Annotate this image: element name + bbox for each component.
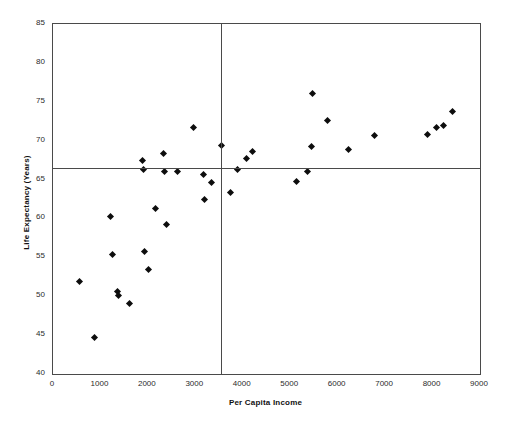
y-tick-label: 55 xyxy=(5,252,45,260)
data-point xyxy=(345,146,352,153)
x-tick-label: 7000 xyxy=(364,379,404,388)
data-point xyxy=(293,178,300,185)
data-point xyxy=(308,143,315,150)
data-point xyxy=(200,171,207,178)
x-tick-label: 4000 xyxy=(222,379,262,388)
vertical-reference-line xyxy=(221,24,222,374)
data-point xyxy=(208,179,215,186)
data-point xyxy=(227,188,234,195)
y-tick-label: 45 xyxy=(5,330,45,338)
data-point xyxy=(371,132,378,139)
y-tick-label: 70 xyxy=(5,136,45,144)
x-tick-label: 8000 xyxy=(412,379,452,388)
data-point xyxy=(76,278,83,285)
data-point xyxy=(126,300,133,307)
scatter-plot-figure: Life Expectancy (Years) 4045505560657075… xyxy=(0,0,505,423)
data-point xyxy=(151,205,158,212)
data-point xyxy=(109,251,116,258)
data-point xyxy=(448,108,455,115)
y-axis-tick-labels: 40455055606570758085 xyxy=(0,23,52,373)
data-point xyxy=(163,221,170,228)
y-tick-label: 75 xyxy=(5,97,45,105)
data-point xyxy=(309,90,316,97)
data-point xyxy=(139,157,146,164)
data-point xyxy=(141,248,148,255)
data-point xyxy=(115,292,122,299)
x-axis-tick-labels: 0100020003000400050006000700080009000 xyxy=(52,379,479,393)
data-point xyxy=(160,150,167,157)
y-tick-label: 85 xyxy=(5,19,45,27)
x-tick-label: 0 xyxy=(32,379,72,388)
x-axis-title: Per Capita Income xyxy=(52,398,479,407)
y-tick-label: 40 xyxy=(5,369,45,377)
x-tick-label: 6000 xyxy=(317,379,357,388)
data-point xyxy=(190,124,197,131)
data-point xyxy=(249,148,256,155)
data-point xyxy=(107,213,114,220)
data-point xyxy=(201,196,208,203)
y-tick-label: 60 xyxy=(5,213,45,221)
data-point xyxy=(243,155,250,162)
x-tick-label: 5000 xyxy=(269,379,309,388)
data-point xyxy=(91,334,98,341)
y-tick-label: 80 xyxy=(5,58,45,66)
horizontal-reference-line xyxy=(53,168,480,169)
data-point xyxy=(440,122,447,129)
y-tick-label: 65 xyxy=(5,175,45,183)
data-point xyxy=(324,117,331,124)
x-tick-label: 3000 xyxy=(174,379,214,388)
y-tick-label: 50 xyxy=(5,291,45,299)
data-point xyxy=(174,168,181,175)
data-point xyxy=(424,131,431,138)
x-tick-label: 9000 xyxy=(459,379,499,388)
x-tick-label: 1000 xyxy=(79,379,119,388)
plot-area xyxy=(52,23,481,375)
data-point xyxy=(145,265,152,272)
x-tick-label: 2000 xyxy=(127,379,167,388)
